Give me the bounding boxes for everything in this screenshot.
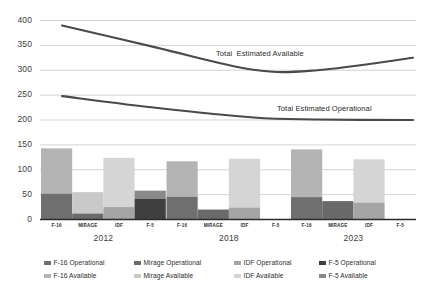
x-axis-group-label-2012: 2012 <box>41 233 166 243</box>
legend-label: IDF Available <box>244 272 284 279</box>
legend-row: F-16 OperationalMirage OperationalIDF Op… <box>44 256 384 269</box>
annotation-total-estimated-operational: Total Estimated Operational <box>277 104 372 113</box>
legend-row: F-16 AvailableMirage AvailableIDF Availa… <box>44 269 384 282</box>
x-axis-label-f-16: F-16 <box>291 223 322 228</box>
annotation-total-estimated-available: Total Estimated Available <box>216 49 304 58</box>
chart-legend: F-16 OperationalMirage OperationalIDF Op… <box>44 256 384 282</box>
x-axis-label-f-16: F-16 <box>167 223 198 228</box>
bar-segment-available <box>167 161 198 196</box>
legend-label: F-16 Available <box>54 272 97 279</box>
legend-swatch-icon <box>134 274 141 278</box>
legend-label: IDF Operational <box>244 259 292 266</box>
bar-segment-available <box>229 159 260 208</box>
x-axis-label-f-5: F-5 <box>385 223 416 228</box>
bar-segment-operational <box>135 199 166 220</box>
y-axis-tick-200: 200 <box>4 114 32 124</box>
legend-label: F-5 Available <box>329 272 368 279</box>
legend-swatch-icon <box>134 261 141 265</box>
bar-segment-operational <box>72 214 103 220</box>
legend-item-idf-available[interactable]: IDF Available <box>234 272 319 279</box>
x-axis-label-idf: IDF <box>103 223 134 228</box>
bar-segment-operational <box>167 197 198 220</box>
y-axis-tick-50: 50 <box>4 189 32 199</box>
bar-segment-operational <box>291 197 322 219</box>
chart-figure: 050100150200250300350400 F-16MIRAGEIDFF-… <box>0 0 423 299</box>
bar-series <box>41 148 385 219</box>
legend-swatch-icon <box>44 274 51 278</box>
bar-segment-operational <box>41 194 72 220</box>
legend-label: Mirage Operational <box>144 259 202 266</box>
bar-segment-available <box>353 159 384 202</box>
y-axis-tick-0: 0 <box>4 214 32 224</box>
chart-canvas <box>0 0 423 299</box>
y-axis-tick-250: 250 <box>4 89 32 99</box>
x-axis-label-mirage: MIRAGE <box>322 223 353 228</box>
legend-item-mirage-available[interactable]: Mirage Available <box>134 272 234 279</box>
bar-segment-available <box>41 148 72 193</box>
x-axis-group-label-2018: 2018 <box>167 233 292 243</box>
legend-swatch-icon <box>234 274 241 278</box>
x-axis-label-f-5: F-5 <box>260 223 291 228</box>
legend-swatch-icon <box>319 261 326 265</box>
legend-label: F-5 Operational <box>329 259 376 266</box>
bar-segment-available <box>135 191 166 199</box>
y-axis-tick-150: 150 <box>4 139 32 149</box>
x-axis-label-f-16: F-16 <box>41 223 72 228</box>
x-axis-label-idf: IDF <box>229 223 260 228</box>
legend-swatch-icon <box>234 261 241 265</box>
legend-swatch-icon <box>44 261 51 265</box>
bar-segment-available <box>72 192 103 213</box>
y-axis-tick-300: 300 <box>4 64 32 74</box>
x-axis-label-idf: IDF <box>353 223 384 228</box>
bar-segment-available <box>103 158 134 207</box>
x-axis-group-label-2023: 2023 <box>291 233 416 243</box>
bar-segment-available <box>291 149 322 197</box>
x-axis-label-f-5: F-5 <box>135 223 166 228</box>
bar-segment-operational <box>103 207 134 219</box>
bar-segment-operational <box>322 201 353 219</box>
bar-segment-operational <box>198 210 229 220</box>
y-axis-tick-100: 100 <box>4 164 32 174</box>
legend-item-f-16-available[interactable]: F-16 Available <box>44 272 134 279</box>
x-axis-label-mirage: MIRAGE <box>198 223 229 228</box>
legend-item-idf-operational[interactable]: IDF Operational <box>234 259 319 266</box>
legend-item-f-16-operational[interactable]: F-16 Operational <box>44 259 134 266</box>
y-axis-tick-350: 350 <box>4 39 32 49</box>
legend-swatch-icon <box>319 274 326 278</box>
legend-item-f-5-available[interactable]: F-5 Available <box>319 272 384 279</box>
bar-segment-operational <box>229 208 260 220</box>
bar-segment-operational <box>353 203 384 220</box>
legend-label: F-16 Operational <box>54 259 105 266</box>
legend-item-f-5-operational[interactable]: F-5 Operational <box>319 259 384 266</box>
legend-item-mirage-operational[interactable]: Mirage Operational <box>134 259 234 266</box>
x-axis-label-mirage: MIRAGE <box>72 223 103 228</box>
y-axis-tick-400: 400 <box>4 15 32 25</box>
legend-label: Mirage Available <box>144 272 194 279</box>
